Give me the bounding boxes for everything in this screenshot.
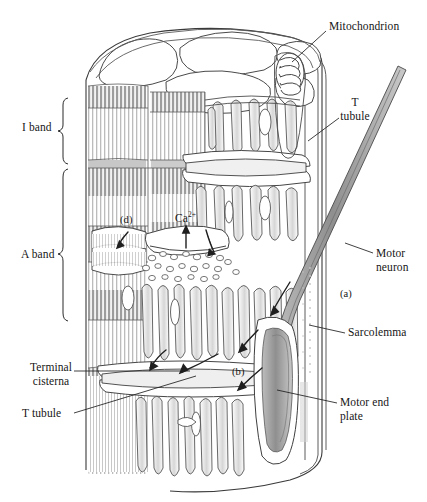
end-plate-shading: [300, 382, 308, 442]
label-calcium-element: Ca: [175, 212, 188, 224]
label-i-band: I band: [22, 121, 52, 135]
label-calcium-charge: 2+: [188, 210, 196, 219]
muscle-fiber-figure: Mitochondrion T tubule Motor neuron Sarc…: [0, 0, 427, 502]
label-marker-a: (a): [340, 288, 352, 300]
label-calcium-ion: Ca2+: [175, 211, 196, 225]
a-band-bracket: [58, 169, 68, 321]
label-motor-end-plate: Motor end plate: [340, 396, 389, 423]
t-tubule-upper: [186, 159, 306, 176]
sr-bottom-tubules: [136, 396, 244, 476]
sarcoplasmic-reticulum: [208, 99, 297, 155]
motor-neuron-leader: [345, 243, 373, 253]
label-marker-d: (d): [120, 214, 133, 226]
label-marker-b: (b): [232, 366, 245, 378]
calcium-vesicles: [142, 252, 239, 282]
muscle-fiber-illustration: [0, 0, 427, 502]
i-band-bracket: [58, 98, 68, 164]
label-motor-neuron: Motor neuron: [376, 247, 409, 274]
label-sarcolemma: Sarcolemma: [348, 326, 406, 340]
label-t-tubule-right: T tubule: [332, 96, 378, 123]
motor-end-plate: [254, 317, 298, 464]
sarcolemma-leader: [309, 325, 345, 333]
sectioned-myofibril-d: [92, 227, 146, 275]
label-t-tubule-left: T tubule: [22, 407, 61, 421]
label-mitochondrion: Mitochondrion: [329, 20, 399, 34]
label-a-band: A band: [21, 248, 55, 262]
label-terminal-cisterna: Terminal cisterna: [14, 361, 88, 388]
